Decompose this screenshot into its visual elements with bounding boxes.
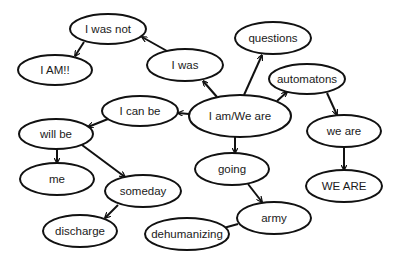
edge-i-was-not-to-i-am-excl xyxy=(75,42,84,56)
node-automatons: automatons xyxy=(269,64,345,94)
node-going: going xyxy=(195,153,269,185)
arrow-icon xyxy=(75,42,84,56)
node-i-am-excl: I AM!! xyxy=(18,55,92,85)
arrow-icon xyxy=(88,119,108,127)
node-me: me xyxy=(20,163,94,195)
node-label: army xyxy=(261,212,287,224)
node-questions: questions xyxy=(235,22,311,54)
node-label: I can be xyxy=(120,105,161,117)
node-i-was: I was xyxy=(147,49,223,81)
node-label: I AM!! xyxy=(40,64,69,76)
edge-going-to-army xyxy=(248,184,262,202)
node-dehumanizing: dehumanizing xyxy=(145,218,229,250)
arrow-icon xyxy=(203,81,217,97)
node-label: someday xyxy=(120,185,167,197)
node-label: will be xyxy=(39,128,72,140)
node-we-are: we are xyxy=(307,115,381,147)
edge-someday-to-discharge xyxy=(105,205,118,218)
node-label: me xyxy=(49,173,65,185)
node-label: questions xyxy=(248,32,297,44)
node-label: I am/We are xyxy=(209,110,271,122)
arrow-icon xyxy=(142,37,167,51)
concept-map: I was notI AM!!I wasquestionsautomatonsI… xyxy=(0,0,406,264)
node-someday: someday xyxy=(105,175,181,207)
node-label: we are xyxy=(326,125,362,137)
edge-automatons-to-we-are xyxy=(327,93,337,115)
edge-i-am-we-are-to-questions xyxy=(244,55,262,95)
node-we-are: WE ARE xyxy=(306,170,382,202)
node-label: WE ARE xyxy=(322,180,367,192)
edge-i-am-we-are-to-automatons xyxy=(277,92,287,101)
node-label: automatons xyxy=(277,73,337,85)
arrow-icon xyxy=(248,184,262,202)
edge-i-am-we-are-to-i-can-be xyxy=(178,113,189,114)
node-army: army xyxy=(237,202,311,234)
edge-i-was-to-i-was-not xyxy=(142,37,167,51)
node-discharge: discharge xyxy=(43,215,117,247)
arrow-icon xyxy=(277,92,287,101)
node-i-am-we-are: I am/We are xyxy=(189,95,291,137)
node-label: I was not xyxy=(85,23,132,35)
arrow-icon xyxy=(244,55,262,95)
arrow-icon xyxy=(105,205,118,218)
arrow-icon xyxy=(178,113,189,114)
arrow-icon xyxy=(327,93,337,115)
node-label: discharge xyxy=(55,225,105,237)
node-i-was-not: I was not xyxy=(70,14,146,44)
edge-i-can-be-to-will-be xyxy=(88,119,108,127)
node-label: going xyxy=(218,163,246,175)
node-will-be: will be xyxy=(19,119,93,149)
node-label: I was xyxy=(172,59,199,71)
node-layer: I was notI AM!!I wasquestionsautomatonsI… xyxy=(18,14,382,250)
node-i-can-be: I can be xyxy=(102,96,178,126)
edge-i-am-we-are-to-i-was xyxy=(203,81,217,97)
node-label: dehumanizing xyxy=(151,228,223,240)
